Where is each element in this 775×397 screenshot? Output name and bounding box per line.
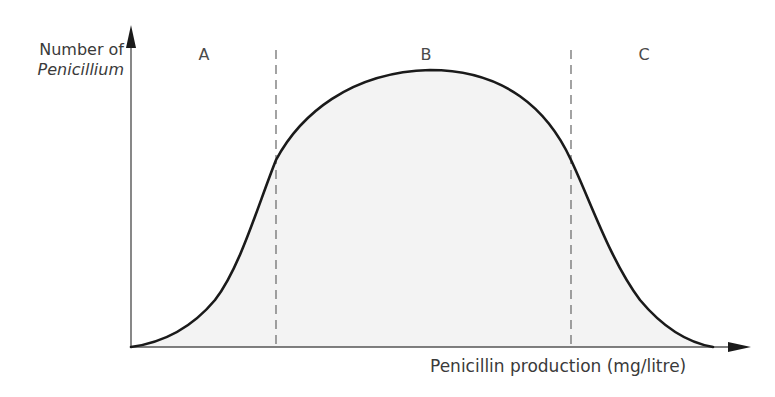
y-axis-label-line2: Penicillium xyxy=(38,60,124,80)
region-label-b: B xyxy=(421,45,432,64)
region-label-a: A xyxy=(199,45,210,64)
bell-curve-figure: Number of Penicillium A B C Penicillin p… xyxy=(0,0,775,397)
region-label-c: C xyxy=(638,45,649,64)
y-axis-label-line1: Number of xyxy=(38,40,124,60)
y-axis-arrow-icon xyxy=(126,25,136,48)
area-under-curve xyxy=(131,70,713,347)
y-axis-label: Number of Penicillium xyxy=(38,40,124,80)
x-axis-arrow-icon xyxy=(728,342,751,352)
x-axis-label: Penicillin production (mg/litre) xyxy=(430,356,686,376)
